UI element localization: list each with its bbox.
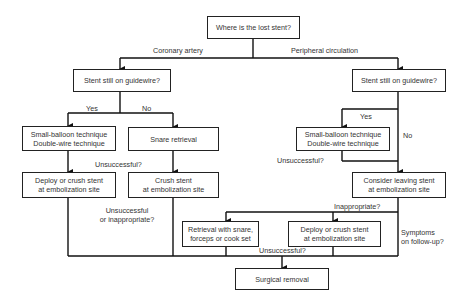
node-coronary-small-balloon: Small-balloon technique Double-wire tech… bbox=[22, 126, 116, 151]
node-text: forceps or cook set bbox=[190, 234, 251, 243]
edge-label-bottom-unsuccessful: Unsuccessful? bbox=[259, 246, 306, 255]
node-text: Crush stent bbox=[155, 176, 192, 185]
node-peripheral-retrieval: Retrieval with snare, forceps or cook se… bbox=[182, 221, 259, 247]
node-text: Stent still on guidewire? bbox=[84, 76, 160, 85]
edge-label-coronary: Coronary artery bbox=[153, 46, 203, 55]
edge-label-coronary-unsuccessful-inappropriate: Unsuccessful or inappropriate? bbox=[92, 206, 162, 224]
node-text: Small-balloon technique bbox=[31, 130, 108, 139]
node-peripheral-small-balloon: Small-balloon technique Double-wire tech… bbox=[296, 127, 390, 151]
node-coronary-crush: Crush stent at embolization site bbox=[128, 172, 219, 198]
connector-lines bbox=[0, 0, 463, 305]
edge-label-peripheral-inappropriate: Inappropriate? bbox=[334, 202, 380, 211]
edge-label-coronary-unsuccessful: Unsuccessful? bbox=[95, 160, 142, 169]
node-text: Surgical removal bbox=[255, 275, 309, 284]
node-peripheral-deploy: Deploy or crush stent at embolization si… bbox=[288, 221, 381, 247]
edge-label-coronary-no: No bbox=[142, 104, 151, 113]
node-text: Snare retrieval bbox=[150, 135, 197, 144]
node-peripheral-guidewire: Stent still on guidewire? bbox=[352, 69, 446, 92]
edge-label-line: Unsuccessful bbox=[92, 206, 162, 215]
node-text: at embolization site bbox=[38, 185, 100, 194]
node-where-is-stent: Where is the lost stent? bbox=[207, 16, 300, 39]
node-coronary-deploy: Deploy or crush stent at embolization si… bbox=[22, 172, 116, 198]
edge-label-line: or inappropriate? bbox=[92, 215, 162, 224]
node-text: Double-wire technique bbox=[33, 139, 105, 148]
node-text: Double-wire technique bbox=[307, 139, 379, 148]
node-text: at embolization site bbox=[143, 185, 205, 194]
node-peripheral-consider: Consider leaving stent at embolization s… bbox=[352, 172, 446, 198]
edge-label-peripheral-symptoms: Symptoms on follow-up? bbox=[401, 228, 444, 246]
node-surgical-removal: Surgical removal bbox=[235, 268, 329, 290]
edge-label-peripheral-no: No bbox=[403, 131, 412, 140]
edge-label-line: on follow-up? bbox=[401, 237, 444, 246]
node-text: Where is the lost stent? bbox=[216, 23, 291, 32]
node-text: Small-balloon technique bbox=[305, 130, 382, 139]
edge-label-peripheral: Peripheral circulation bbox=[291, 46, 358, 55]
node-coronary-snare: Snare retrieval bbox=[128, 127, 219, 151]
node-text: Stent still on guidewire? bbox=[361, 76, 437, 85]
node-text: Retrieval with snare, bbox=[188, 225, 253, 234]
edge-label-coronary-yes: Yes bbox=[86, 104, 98, 113]
node-text: at embolization site bbox=[368, 185, 430, 194]
edge-label-peripheral-unsuccessful: Unsuccessful? bbox=[277, 156, 324, 165]
node-text: Deploy or crush stent bbox=[35, 176, 103, 185]
node-text: at embolization site bbox=[304, 234, 366, 243]
node-text: Consider leaving stent bbox=[363, 176, 434, 185]
node-text: Deploy or crush stent bbox=[301, 225, 369, 234]
edge-label-peripheral-yes: Yes bbox=[360, 112, 372, 121]
edge-label-line: Symptoms bbox=[401, 228, 444, 237]
node-coronary-guidewire: Stent still on guidewire? bbox=[73, 69, 171, 92]
